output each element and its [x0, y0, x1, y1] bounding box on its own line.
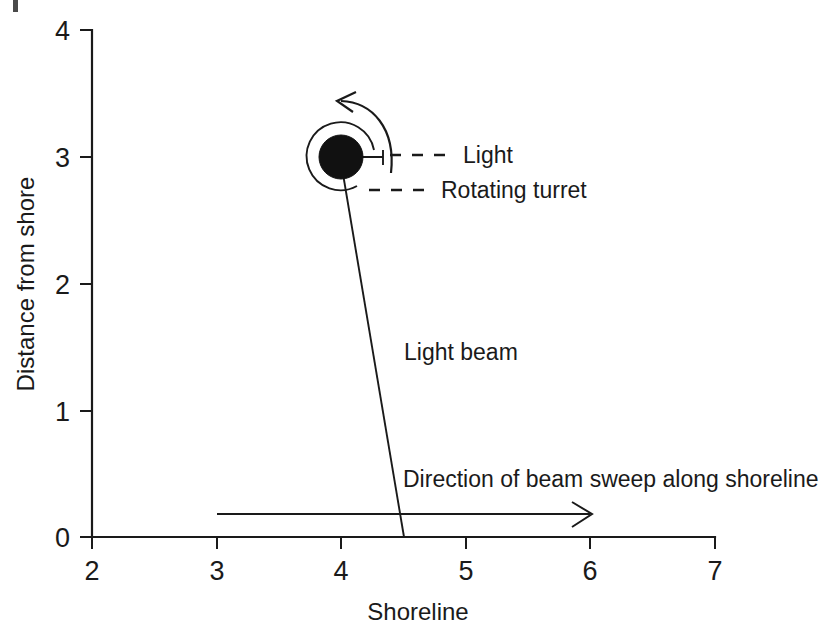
x-tick-label-2: 2: [84, 556, 99, 586]
x-tick-label-4: 4: [333, 556, 348, 586]
x-tick-label-7: 7: [707, 556, 722, 586]
y-axis: [80, 30, 92, 537]
rotating-turret-label: Rotating turret: [441, 177, 587, 203]
y-tick-label-0: 0: [55, 523, 70, 553]
x-axis: [92, 537, 715, 549]
beam-sweep-arrow-group: [217, 502, 592, 527]
y-tick-label-3: 3: [55, 143, 70, 173]
x-tick-label-6: 6: [582, 556, 597, 586]
y-tick-label-2: 2: [55, 270, 70, 300]
x-axis-tick-labels: 2 3 4 5 6 7: [84, 556, 722, 586]
diagram-canvas: 4 3 2 1 0 2 3 4 5 6 7 Shoreline Distance…: [0, 0, 822, 630]
light-beam-line: [341, 162, 404, 537]
light-beam-label: Light beam: [404, 339, 518, 365]
x-axis-title: Shoreline: [367, 598, 468, 625]
light-label: Light: [463, 142, 513, 168]
x-tick-label-3: 3: [209, 556, 224, 586]
lighthouse-diagram-figure: 4 3 2 1 0 2 3 4 5 6 7 Shoreline Distance…: [0, 0, 822, 630]
x-tick-label-5: 5: [458, 556, 473, 586]
light-source-dot: [319, 135, 363, 179]
y-tick-label-1: 1: [55, 397, 70, 427]
y-axis-title: Distance from shore: [12, 177, 39, 392]
y-tick-label-4: 4: [55, 16, 70, 46]
y-axis-tick-labels: 4 3 2 1 0: [55, 16, 70, 553]
beam-sweep-label: Direction of beam sweep along shoreline: [403, 466, 819, 492]
